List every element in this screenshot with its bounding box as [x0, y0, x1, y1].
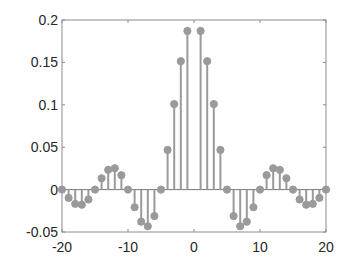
stem-marker	[256, 186, 263, 193]
stem-marker	[184, 27, 191, 34]
axes-box	[62, 20, 326, 232]
stem-marker	[263, 172, 270, 179]
stem-marker	[65, 194, 72, 201]
stem-marker	[276, 166, 283, 173]
stem-marker	[98, 175, 105, 182]
stem-marker	[118, 172, 125, 179]
stem-marker	[171, 100, 178, 107]
stem-marker	[124, 186, 131, 193]
x-tick-label: 20	[318, 239, 334, 255]
stem-marker	[237, 223, 244, 230]
stem-marker	[250, 204, 257, 211]
stem-marker	[210, 100, 217, 107]
y-tick-label: 0.05	[31, 139, 58, 155]
stem-marker	[243, 218, 250, 225]
stem-marker	[157, 186, 164, 193]
x-tick-label: -20	[52, 239, 72, 255]
axes	[62, 20, 326, 232]
stem-marker	[105, 166, 112, 173]
stem-marker	[230, 212, 237, 219]
stem-marker	[85, 196, 92, 203]
stem-marker	[204, 58, 211, 65]
stem-marker	[131, 204, 138, 211]
stem-marker	[138, 218, 145, 225]
stem-marker	[164, 146, 171, 153]
stem-marker	[111, 165, 118, 172]
stem-marker	[58, 186, 65, 193]
stem-marker	[270, 165, 277, 172]
stem-marker	[223, 186, 230, 193]
x-tick-label: 0	[190, 239, 198, 255]
x-tick-label: 10	[252, 239, 268, 255]
stem-marker	[91, 186, 98, 193]
stems	[58, 27, 329, 229]
y-tick-label: 0.15	[31, 54, 58, 70]
stem-marker	[289, 186, 296, 193]
y-tick-label: -0.05	[26, 224, 58, 240]
y-tick-label: 0	[50, 182, 58, 198]
stem-marker	[296, 196, 303, 203]
stem-marker	[177, 58, 184, 65]
stem-marker	[316, 194, 323, 201]
stem-marker	[303, 201, 310, 208]
y-tick-label: 0.1	[39, 97, 59, 113]
y-tick-label: 0.2	[39, 12, 59, 28]
stem-chart: -20-1001020-0.0500.050.10.150.2	[0, 0, 348, 270]
stem-marker	[283, 175, 290, 182]
chart-canvas: -20-1001020-0.0500.050.10.150.2	[0, 0, 348, 270]
stem-marker	[72, 200, 79, 207]
stem-marker	[322, 186, 329, 193]
stem-marker	[309, 200, 316, 207]
x-tick-label: -10	[118, 239, 138, 255]
stem-marker	[144, 223, 151, 230]
stem-marker	[217, 146, 224, 153]
stem-marker	[151, 212, 158, 219]
stem-marker	[78, 201, 85, 208]
stem-marker	[197, 27, 204, 34]
